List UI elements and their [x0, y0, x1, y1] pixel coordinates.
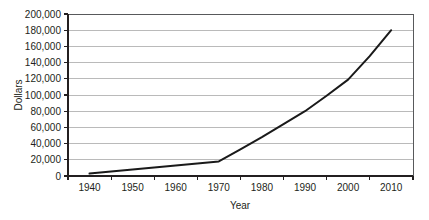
y-axis-ticks — [64, 14, 68, 176]
x-tick-label-2000: 2000 — [337, 182, 360, 193]
y-tick-label-80000: 80,000 — [30, 106, 61, 117]
x-tick-label-2010: 2010 — [380, 182, 403, 193]
x-tick-label-1950: 1950 — [121, 182, 144, 193]
y-tick-label-40000: 40,000 — [30, 138, 61, 149]
x-tick-label-1960: 1960 — [165, 182, 188, 193]
y-tick-label-100000: 100,000 — [25, 90, 62, 101]
x-tick-label-1940: 1940 — [78, 182, 101, 193]
x-tick-label-1990: 1990 — [294, 182, 317, 193]
x-tick-label-1980: 1980 — [251, 182, 274, 193]
y-tick-label-120000: 120,000 — [25, 73, 62, 84]
chart-canvas: 200,000 180,000 160,000 140,000 120,000 … — [0, 0, 429, 220]
y-tick-label-20000: 20,000 — [30, 154, 61, 165]
line-chart: 200,000 180,000 160,000 140,000 120,000 … — [0, 0, 429, 220]
y-tick-label-60000: 60,000 — [30, 122, 61, 133]
y-tick-label-140000: 140,000 — [25, 57, 62, 68]
y-tick-label-160000: 160,000 — [25, 41, 62, 52]
y-tick-label-0: 0 — [55, 171, 61, 182]
x-axis-title: Year — [230, 200, 251, 211]
y-axis-tick-labels: 200,000 180,000 160,000 140,000 120,000 … — [25, 9, 62, 182]
y-tick-label-200000: 200,000 — [25, 9, 62, 20]
x-axis-tick-labels: 1940 1950 1960 1970 1980 1990 2000 2010 — [78, 182, 402, 193]
y-axis-title: Dollars — [13, 79, 24, 110]
y-tick-label-180000: 180,000 — [25, 25, 62, 36]
x-axis-ticks — [68, 176, 413, 180]
x-tick-label-1970: 1970 — [208, 182, 231, 193]
